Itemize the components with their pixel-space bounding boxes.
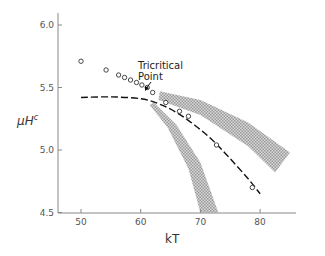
data-point-circle bbox=[186, 114, 190, 118]
data-point-circle bbox=[122, 75, 126, 79]
x-axis-label: kT bbox=[165, 232, 180, 246]
data-point-circle bbox=[140, 83, 144, 87]
x-tick-label: 70 bbox=[195, 217, 207, 227]
data-point-circle bbox=[104, 68, 108, 72]
tricritical-annotation: Tricritical bbox=[137, 60, 183, 71]
x-tick-label: 60 bbox=[135, 217, 147, 227]
x-ticks: 50607080 bbox=[75, 209, 266, 227]
x-tick-label: 50 bbox=[75, 217, 87, 227]
data-point-circle bbox=[250, 185, 254, 189]
data-point-circle bbox=[116, 73, 120, 77]
y-axis-label: μHc bbox=[16, 113, 39, 128]
data-point-circle bbox=[214, 143, 218, 147]
data-point-circle bbox=[164, 100, 168, 104]
dashed-curve bbox=[81, 97, 260, 194]
x-tick-label: 80 bbox=[254, 217, 266, 227]
phase-diagram-chart: 50607080 4.55.05.56.0 μHc kT Tricritical… bbox=[0, 0, 325, 256]
data-point-circle bbox=[150, 90, 154, 94]
y-tick-label: 5.5 bbox=[40, 83, 54, 93]
y-tick-label: 4.5 bbox=[40, 208, 54, 218]
tricritical-annotation-line2: Point bbox=[138, 71, 163, 82]
data-point-circle bbox=[79, 59, 83, 63]
y-ticks: 4.55.05.56.0 bbox=[40, 20, 62, 218]
data-point-circle bbox=[128, 78, 132, 82]
y-tick-label: 5.0 bbox=[40, 145, 55, 155]
data-point-circle bbox=[177, 109, 181, 113]
y-tick-label: 6.0 bbox=[40, 20, 55, 30]
